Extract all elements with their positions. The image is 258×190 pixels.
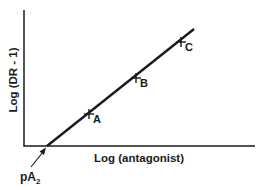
regression-line bbox=[47, 29, 194, 146]
point-label-b: B bbox=[140, 77, 148, 89]
pa2-label: pA2 bbox=[20, 170, 41, 186]
pa2-main: pA bbox=[20, 170, 36, 184]
point-label-c: C bbox=[185, 41, 193, 53]
point-label-a: A bbox=[93, 113, 101, 125]
pa2-arrow bbox=[31, 148, 46, 168]
y-axis-label: Log (DR - 1) bbox=[7, 47, 19, 112]
pa2-subscript: 2 bbox=[36, 177, 41, 186]
data-markers bbox=[84, 37, 186, 119]
x-axis-label: Log (antagonist) bbox=[94, 152, 184, 164]
schild-plot: A B C Log (antagonist) Log (DR - 1) pA2 bbox=[0, 0, 258, 190]
